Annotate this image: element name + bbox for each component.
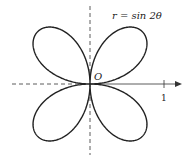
equation-label: r = sin 2θ [112, 10, 162, 21]
tick-label-one: 1 [161, 93, 167, 103]
rose-curve-diagram: r = sin 2θ O 1 [0, 0, 187, 157]
origin-label: O [94, 71, 102, 82]
x-axis-arrow-icon [175, 81, 182, 87]
